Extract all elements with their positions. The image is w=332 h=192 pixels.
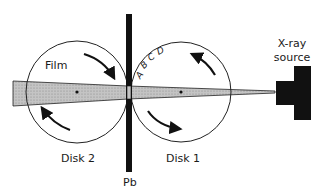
disk-1-label: Disk 1 xyxy=(166,152,200,165)
lead-shield-label: Pb xyxy=(123,176,137,189)
disk-1-arrow-bottom-icon xyxy=(148,111,180,129)
disk-1-center xyxy=(179,90,182,93)
xray-source-label-line1: X-ray xyxy=(278,37,307,50)
shield-aperture xyxy=(127,86,131,99)
disk-1-arrow-top-icon xyxy=(192,54,215,75)
diagram-canvas: A B C D Film Disk 2 Disk 1 Pb X-ray sour… xyxy=(0,0,332,192)
sample-letter-b: B xyxy=(138,59,149,70)
sample-letter-c: C xyxy=(146,51,157,63)
xray-source-icon xyxy=(276,66,311,120)
disk-2-label: Disk 2 xyxy=(61,152,95,165)
disk-2-center xyxy=(75,90,78,93)
xray-source-label-line2: source xyxy=(274,51,311,64)
disk-2-arrow-top-icon xyxy=(84,54,114,78)
xray-beam xyxy=(13,81,275,106)
sample-letter-d: D xyxy=(155,45,166,57)
disk-2-arrow-bottom-icon xyxy=(42,108,70,130)
film-label: Film xyxy=(45,59,67,72)
sample-letter-a: A xyxy=(133,70,145,82)
